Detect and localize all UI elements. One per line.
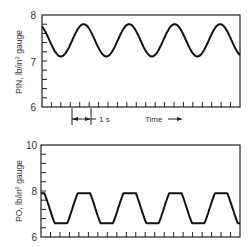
- po-series-line: [41, 193, 240, 223]
- plot-po: 10 8 6 PO, lb/in2 gauge: [14, 140, 240, 243]
- y-axis-label: PO, lb/in2 gauge: [14, 160, 24, 222]
- x-ticks: [51, 102, 230, 107]
- time-scale-annotation: 1 s: [72, 108, 110, 125]
- x-ticks: [50, 232, 230, 237]
- plot-frame: [41, 145, 240, 237]
- y-tick-label: 8: [30, 10, 36, 21]
- y-tick-label: 6: [31, 232, 37, 243]
- time-axis-annotation: Time: [145, 115, 183, 124]
- y-axis-label: PIN, lb/in2 gauge: [14, 30, 24, 94]
- y-ticks: [41, 154, 46, 228]
- plot-pin: 8 7 6 PIN, lb/in2 gauge 1 s Time: [14, 10, 240, 125]
- chart-canvas: 8 7 6 PIN, lb/in2 gauge 1 s Time 10 8 6 …: [0, 0, 249, 247]
- arrow-right-icon: [177, 117, 183, 121]
- x-axis-label: Time: [145, 115, 163, 124]
- y-tick-label: 8: [31, 186, 37, 197]
- y-tick-label: 10: [26, 140, 38, 151]
- plot-frame: [42, 15, 240, 107]
- y-tick-label: 7: [30, 57, 36, 68]
- pin-series-line: [42, 24, 240, 56]
- y-tick-label: 6: [30, 102, 36, 113]
- scale-label: 1 s: [99, 115, 110, 124]
